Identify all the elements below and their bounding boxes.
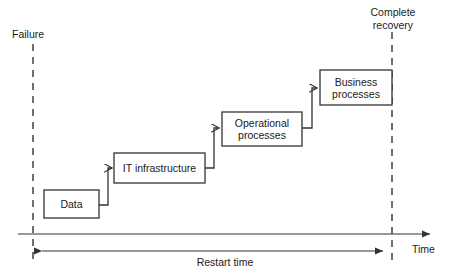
connector-operational-processes-to-business-processes <box>302 88 317 128</box>
complete-recovery-label-line1: Complete <box>352 6 434 19</box>
step-box-it-infrastructure <box>114 153 205 183</box>
restart-time-label: Restart time <box>160 256 290 268</box>
complete-recovery-label-line2: recovery <box>352 19 434 32</box>
time-axis-label: Time <box>412 243 435 255</box>
recovery-timeline-diagram: Failure Complete recovery Data IT infras… <box>0 0 449 277</box>
step-box-data <box>44 190 99 218</box>
complete-recovery-marker-label: Complete recovery <box>352 6 434 31</box>
step-box-business-processes <box>320 70 392 105</box>
diagram-canvas <box>0 0 449 277</box>
failure-marker-label: Failure <box>12 28 44 41</box>
step-box-operational-processes <box>222 112 302 146</box>
connector-it-infrastructure-to-operational-processes <box>205 128 219 168</box>
connector-data-to-it-infrastructure <box>99 168 112 205</box>
